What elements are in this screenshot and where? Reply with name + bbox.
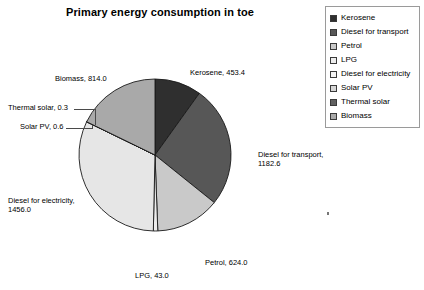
legend-item[interactable]: Diesel for electricity: [330, 67, 416, 81]
legend-item[interactable]: Biomass: [330, 109, 416, 123]
legend-swatch-icon: [330, 43, 337, 50]
data-label-kerosene: Kerosene, 453.4: [190, 68, 245, 77]
scan-artifact-speck: [327, 212, 329, 215]
leader-line-solar-pv-elbow: [92, 125, 93, 129]
data-label-diesel-for-transport-value: 1182.6: [258, 159, 323, 168]
legend-item-label: Petrol: [341, 39, 362, 53]
legend-item[interactable]: Diesel for transport: [330, 25, 416, 39]
legend-swatch-icon: [330, 99, 337, 106]
legend-item-label: Biomass: [341, 109, 372, 123]
pie-plot-area: [78, 78, 232, 232]
pie-slice-group: [79, 79, 231, 231]
legend-swatch-icon: [330, 85, 337, 92]
legend-item[interactable]: Petrol: [330, 39, 416, 53]
data-label-lpg: LPG, 43.0: [135, 271, 169, 280]
legend-item[interactable]: Thermal solar: [330, 95, 416, 109]
legend-swatch-icon: [330, 29, 337, 36]
pie-chart-figure: Primary energy consumption in toe Kerose…: [0, 0, 424, 290]
legend-item-label: Diesel for electricity: [341, 67, 410, 81]
data-label-thermal-solar: Thermal solar, 0.3: [8, 103, 68, 112]
data-label-diesel-for-transport-name: Diesel for transport,: [258, 150, 323, 159]
legend-swatch-icon: [330, 113, 337, 120]
data-label-diesel-for-electricity-value: 1456.0: [8, 205, 75, 214]
legend-item-label: Diesel for transport: [341, 25, 409, 39]
data-label-diesel-for-transport: Diesel for transport, 1182.6: [258, 150, 323, 168]
leader-line-solar-pv: [66, 128, 93, 129]
legend-item-label: LPG: [341, 53, 357, 67]
leader-line-thermal-solar: [74, 109, 96, 110]
legend-item[interactable]: Kerosene: [330, 11, 416, 25]
legend-item-label: Thermal solar: [341, 95, 390, 109]
legend-item-label: Solar PV: [341, 81, 373, 95]
data-label-solar-pv: Solar PV, 0.6: [20, 122, 64, 131]
legend-swatch-icon: [330, 15, 337, 22]
data-label-petrol: Petrol, 624.0: [205, 258, 248, 267]
legend-swatch-icon: [330, 57, 337, 64]
leader-line-thermal-solar-elbow: [95, 109, 96, 125]
legend-swatch-icon: [330, 71, 337, 78]
chart-title: Primary energy consumption in toe: [0, 6, 320, 18]
legend-item[interactable]: Solar PV: [330, 81, 416, 95]
chart-legend: KeroseneDiesel for transportPetrolLPGDie…: [325, 6, 420, 128]
data-label-diesel-for-electricity: Diesel for electricity, 1456.0: [8, 196, 75, 214]
data-label-biomass: Biomass, 814.0: [55, 74, 107, 83]
legend-item[interactable]: LPG: [330, 53, 416, 67]
pie-svg: [78, 78, 232, 232]
legend-item-label: Kerosene: [341, 11, 375, 25]
data-label-diesel-for-electricity-name: Diesel for electricity,: [8, 196, 75, 205]
